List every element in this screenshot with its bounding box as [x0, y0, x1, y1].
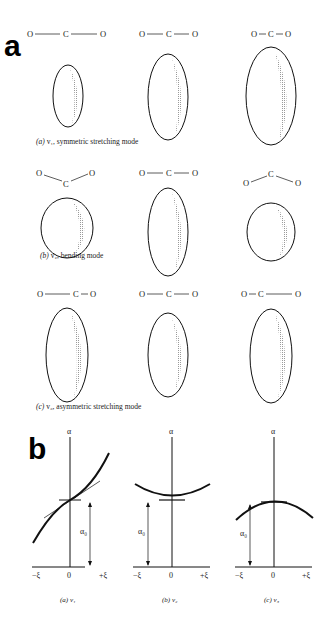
- svg-text:C: C: [63, 29, 69, 39]
- plot3-xtick-zero: 0: [271, 571, 275, 580]
- plot3-caption: (c) v₃: [264, 596, 279, 604]
- plot1-y-label: α: [67, 427, 71, 436]
- plot-v3: [235, 437, 313, 567]
- svg-text:C: C: [258, 289, 264, 299]
- svg-text:O: O: [27, 29, 33, 39]
- plot2-caption-prefix: (b): [162, 596, 170, 604]
- plot1-alpha0-label: α₀: [80, 527, 87, 536]
- plot3-xtick-neg: −ξ: [235, 571, 243, 580]
- caption-row2-text: v₂, bending mode: [51, 251, 104, 260]
- row1-ellipsoids: [53, 47, 296, 145]
- svg-text:O: O: [285, 29, 291, 39]
- plot2-y-label: α: [169, 427, 173, 436]
- plot-v1: [32, 437, 109, 567]
- svg-text:C: C: [73, 289, 79, 299]
- svg-text:O: O: [139, 168, 145, 178]
- row3-ellipsoids: [46, 308, 292, 403]
- plot2-xtick-neg: −ξ: [133, 571, 141, 580]
- svg-text:O: O: [36, 168, 42, 178]
- plot2-xtick-zero: 0: [169, 571, 173, 580]
- svg-text:O: O: [241, 289, 247, 299]
- figure-drawing: O C O O C O O C O O C O O C O O C O: [0, 0, 324, 631]
- row2-ellipsoids: [41, 188, 295, 276]
- caption-row1: (a) v₁, symmetric stretching mode: [36, 137, 138, 146]
- plot3-caption-prefix: (c): [264, 596, 272, 604]
- svg-text:C: C: [166, 29, 172, 39]
- svg-text:C: C: [268, 169, 274, 179]
- row1-molecules: O C O O C O O C O: [27, 29, 291, 39]
- plot1-caption-mode: v₁: [70, 596, 76, 604]
- svg-text:O: O: [192, 289, 198, 299]
- plot2-xtick-pos: +ξ: [200, 571, 208, 580]
- svg-text:C: C: [166, 168, 172, 178]
- plot3-caption-mode: v₃: [274, 596, 280, 604]
- row2-molecules: O C O O C O O C O: [36, 168, 301, 189]
- plot2-caption-mode: v₂: [172, 596, 178, 604]
- svg-text:C: C: [166, 289, 172, 299]
- plot1-xtick-neg: −ξ: [32, 571, 40, 580]
- svg-text:O: O: [251, 29, 257, 39]
- svg-text:C: C: [63, 179, 69, 189]
- svg-text:O: O: [295, 289, 301, 299]
- caption-row3-text: v₃, asymmetric stretching mode: [46, 402, 141, 411]
- plot3-y-label: α: [271, 427, 275, 436]
- plot3-xtick-pos: +ξ: [302, 571, 310, 580]
- caption-row2: (b) v₂, bending mode: [40, 251, 103, 260]
- plot2-caption: (b) v₂: [162, 596, 177, 604]
- caption-row3: (c) v₃, asymmetric stretching mode: [36, 402, 141, 411]
- svg-text:O: O: [192, 29, 198, 39]
- svg-text:O: O: [295, 178, 301, 188]
- caption-row3-prefix: (c): [36, 402, 44, 411]
- plot-v2: [133, 437, 210, 567]
- caption-row2-prefix: (b): [40, 251, 49, 260]
- plot1-xtick-pos: +ξ: [99, 571, 107, 580]
- plot2-alpha0-label: α₀: [138, 527, 145, 536]
- svg-text:O: O: [100, 29, 106, 39]
- svg-text:O: O: [192, 168, 198, 178]
- svg-text:O: O: [37, 289, 43, 299]
- svg-text:O: O: [243, 178, 249, 188]
- svg-text:C: C: [268, 29, 274, 39]
- svg-text:O: O: [139, 289, 145, 299]
- svg-text:O: O: [90, 289, 96, 299]
- caption-row1-prefix: (a): [36, 137, 45, 146]
- plot1-xtick-zero: 0: [67, 571, 71, 580]
- plot1-caption: (a) v₁: [60, 596, 75, 604]
- plot3-alpha0-label: α₀: [240, 529, 247, 538]
- row3-molecules: O C O O C O O C O: [37, 289, 301, 299]
- svg-text:O: O: [139, 29, 145, 39]
- plot1-caption-prefix: (a): [60, 596, 68, 604]
- svg-text:O: O: [89, 168, 95, 178]
- caption-row1-text: v₁, symmetric stretching mode: [47, 137, 139, 146]
